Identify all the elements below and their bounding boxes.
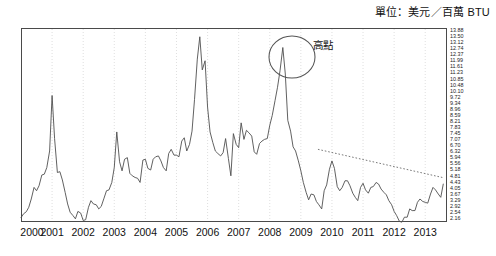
x-axis-tick-label: 2005 xyxy=(165,226,188,238)
x-axis-tick-label: 2004 xyxy=(134,226,157,238)
x-axis-tick-label: 2008 xyxy=(258,226,281,238)
x-axis-tick-label: 2001 xyxy=(40,226,63,238)
y-axis-tick-label: 2.16 xyxy=(450,216,461,221)
y-axis: 13.8813.5013.1212.7412.3711.9911.6111.23… xyxy=(450,28,494,222)
high-point-label: 高點 xyxy=(313,37,333,52)
x-axis-tick-label: 2003 xyxy=(103,226,126,238)
x-axis-tick-label: 2012 xyxy=(382,226,405,238)
natural-gas-price-chart: 高點 13.8813.5013.1212.7412.3711.9911.6111… xyxy=(0,0,496,256)
x-axis-tick-label: 2009 xyxy=(289,226,312,238)
x-axis-tick-label: 2002 xyxy=(72,226,95,238)
x-axis-tick-label: 2011 xyxy=(352,226,375,238)
x-axis-tick-label: 2013 xyxy=(414,226,437,238)
plot-frame xyxy=(21,28,447,222)
x-axis: 2000200120022003200420052006200720082009… xyxy=(0,226,496,246)
x-axis-tick-label: 2006 xyxy=(196,226,219,238)
x-axis-tick-label: 2007 xyxy=(227,226,250,238)
x-axis-tick-label: 2010 xyxy=(320,226,343,238)
